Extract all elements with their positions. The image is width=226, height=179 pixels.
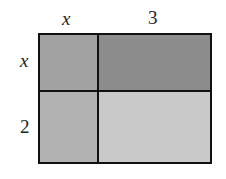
vertical-divider bbox=[97, 35, 99, 162]
horizontal-divider bbox=[40, 90, 210, 92]
cell-x-by-x bbox=[40, 35, 97, 90]
cell-2-by-3 bbox=[99, 92, 210, 162]
side-label-2: 2 bbox=[20, 117, 30, 136]
cell-x-by-3 bbox=[99, 35, 210, 90]
top-label-x: x bbox=[62, 9, 70, 28]
cell-2-by-x bbox=[40, 92, 97, 162]
area-model-rectangle bbox=[38, 33, 212, 164]
side-label-x: x bbox=[20, 51, 28, 70]
top-label-3: 3 bbox=[148, 8, 158, 27]
